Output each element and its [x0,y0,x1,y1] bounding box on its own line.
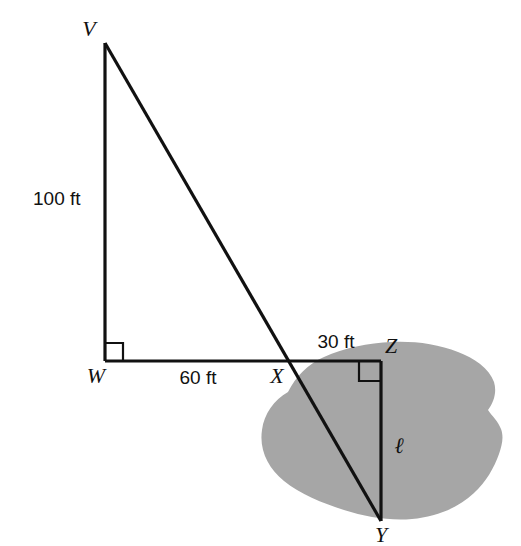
geometry-diagram-canvas: V W X Z Y 100 ft 60 ft 30 ft ℓ [0,0,521,546]
vertex-label-v: V [82,16,98,41]
vertex-label-x: X [269,363,285,388]
diagram-svg: V W X Z Y 100 ft 60 ft 30 ft ℓ [0,0,521,546]
measurement-label-vw: 100 ft [33,188,81,209]
right-angle-mark-w [105,343,123,361]
vertex-label-w: W [87,363,107,388]
measurement-label-zy: ℓ [394,433,404,458]
measurement-label-wx: 60 ft [180,367,218,388]
segment-vy [105,43,381,521]
vertex-label-z: Z [385,333,398,358]
vertex-label-y: Y [375,522,390,546]
measurement-label-xz: 30 ft [318,331,356,352]
